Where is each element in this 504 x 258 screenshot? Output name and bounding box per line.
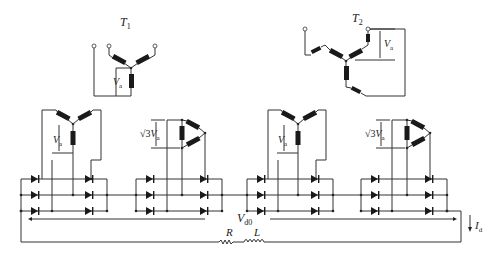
bridge-2 <box>135 175 224 215</box>
l-label: L <box>253 226 260 238</box>
t2-label: T2 <box>352 11 363 27</box>
inductor-icon <box>244 211 461 242</box>
t2-va-label: Va <box>384 38 394 52</box>
bridge-3 <box>246 175 335 215</box>
delta-secondary-2: √3Va <box>140 119 206 213</box>
delta-voltage-label: √3Va <box>140 128 161 142</box>
coil-icon <box>129 74 134 88</box>
output-current: Id <box>468 215 483 234</box>
r-label: R <box>225 226 233 238</box>
star-secondary-3: Va <box>268 110 326 212</box>
bridge-1 <box>20 175 109 215</box>
svg-text:Va: Va <box>53 134 63 148</box>
id-label: Id <box>474 219 483 234</box>
t1-label: T1 <box>120 15 131 31</box>
t1-va-label: Va <box>113 76 123 90</box>
resistor-icon <box>219 240 244 244</box>
svg-text:√3Va: √3Va <box>365 128 386 142</box>
svg-text:Va: Va <box>278 134 288 148</box>
vd0-label: Vd0 <box>237 211 252 227</box>
transformer-t2: T2 Va <box>303 11 405 96</box>
bridge-4 <box>360 175 449 215</box>
transformer-t1: T1 Va <box>92 15 157 96</box>
circuit-diagram: T1 Va T2 <box>0 0 504 258</box>
delta-secondary-4: √3Va <box>365 119 431 213</box>
